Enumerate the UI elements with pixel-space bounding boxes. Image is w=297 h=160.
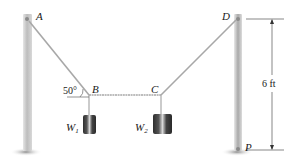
- label-p: P: [244, 141, 252, 153]
- cable-ab: [29, 21, 89, 95]
- label-w2: W2: [135, 121, 148, 135]
- cable-diagram: A B C D P 50° 6 ft W1 W2: [0, 0, 297, 160]
- left-post: [23, 14, 32, 151]
- pin-a: [25, 17, 29, 21]
- angle-label: 50°: [63, 85, 77, 96]
- cable-cd: [161, 20, 236, 95]
- label-b: B: [92, 83, 99, 95]
- dimension-label: 6 ft: [262, 78, 276, 89]
- weight-w2: [153, 114, 172, 134]
- pin-d: [236, 17, 240, 21]
- label-a: A: [35, 10, 43, 22]
- angle-arc: [80, 89, 83, 97]
- pin-p: [236, 147, 240, 151]
- label-w1: W1: [66, 121, 79, 135]
- dim-arrow-top: [270, 19, 274, 24]
- dim-arrow-bottom: [270, 145, 274, 150]
- right-post: [234, 14, 242, 151]
- label-d: D: [221, 10, 230, 22]
- weight-w1: [83, 115, 96, 134]
- label-c: C: [151, 83, 159, 95]
